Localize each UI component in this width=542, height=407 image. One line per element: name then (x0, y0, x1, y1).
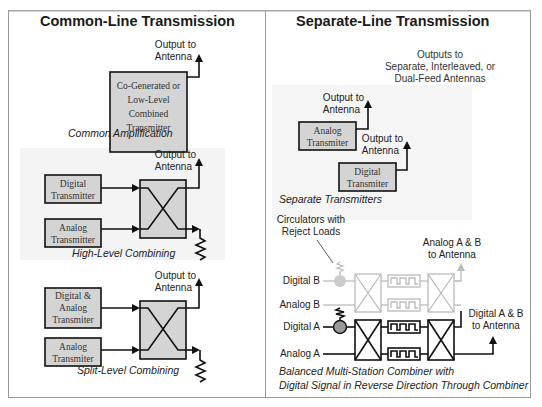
svg-text:Transmiter: Transmiter (52, 354, 94, 364)
input-digital-a: Digital A (283, 321, 320, 332)
svg-text:Combined: Combined (129, 109, 169, 119)
caption-high-level: High-Level Combining (72, 247, 175, 259)
svg-text:Transmiter: Transmiter (347, 179, 389, 189)
svg-text:Output to: Output to (155, 270, 197, 281)
svg-text:Dual-Feed Antennas: Dual-Feed Antennas (394, 73, 485, 84)
svg-text:Reject Loads: Reject Loads (282, 226, 340, 237)
svg-text:Digital: Digital (354, 167, 381, 177)
input-analog-a: Analog A (280, 348, 320, 359)
svg-text:Analog: Analog (314, 126, 342, 136)
svg-text:Digital &: Digital & (55, 291, 92, 301)
svg-text:Antenna: Antenna (323, 104, 361, 115)
svg-text:Analog: Analog (59, 342, 87, 352)
svg-text:Transmiter: Transmiter (52, 315, 94, 325)
svg-text:Output to: Output to (362, 133, 404, 144)
common-line-title: Common-Line Transmission (40, 13, 235, 29)
svg-text:Separate, Interleaved, or: Separate, Interleaved, or (385, 61, 496, 72)
circulator-b-icon (334, 275, 346, 287)
circulator-a-icon (334, 321, 347, 334)
svg-text:Antenna: Antenna (362, 145, 400, 156)
input-analog-b: Analog B (279, 299, 320, 310)
svg-text:Output to: Output to (155, 39, 197, 50)
svg-text:Analog A & B: Analog A & B (423, 237, 482, 248)
svg-text:Digital A & B: Digital A & B (468, 308, 523, 319)
svg-text:Transmitter: Transmitter (51, 235, 96, 245)
svg-text:Output to: Output to (323, 92, 365, 103)
svg-text:Outputs to: Outputs to (417, 49, 464, 60)
svg-text:Digital: Digital (60, 179, 87, 189)
caption-common-amplification: Common Amplification (68, 127, 173, 139)
caption-split-level: Split-Level Combining (77, 364, 179, 376)
separate-line-title: Separate-Line Transmission (296, 13, 489, 29)
svg-text:Transmiter: Transmiter (307, 138, 349, 148)
svg-text:Co-Generated or: Co-Generated or (117, 81, 181, 91)
caption-separate-transmitters: Separate Transmitters (279, 193, 383, 205)
svg-text:Low-Level: Low-Level (127, 95, 170, 105)
svg-text:Output to: Output to (155, 149, 197, 160)
svg-text:Circulators with: Circulators with (277, 214, 345, 225)
caption-balanced-line1: Balanced Multi-Station Combiner with (279, 365, 454, 377)
svg-text:Analog: Analog (59, 303, 87, 313)
input-digital-b: Digital B (283, 275, 321, 286)
svg-text:Analog: Analog (59, 223, 87, 233)
transmission-diagram: Common-Line Transmission Separate-Line T… (0, 0, 542, 407)
svg-text:Antenna: Antenna (155, 161, 193, 172)
svg-text:Antenna: Antenna (155, 51, 193, 62)
svg-text:to Antenna: to Antenna (428, 249, 476, 260)
svg-text:Antenna: Antenna (155, 282, 193, 293)
caption-balanced-line2: Digital Signal in Reverse Direction Thro… (279, 379, 529, 391)
svg-text:Transmitter: Transmitter (51, 191, 96, 201)
svg-text:to Antenna: to Antenna (472, 320, 520, 331)
